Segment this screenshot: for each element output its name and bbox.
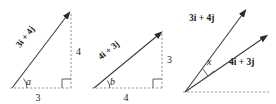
panel-2-vertical-label: 3 xyxy=(167,54,172,65)
panel-2-vector-label: 4i + 3j xyxy=(96,39,121,62)
panel-1-horizontal-label: 3 xyxy=(36,92,41,103)
label-layer: 3i + 4j a 3 4 4i + 3j b 4 3 3i + 4j 4i +… xyxy=(0,0,276,104)
panel-3-angle-label: x xyxy=(206,56,212,67)
panel-2-horizontal-label: 4 xyxy=(124,92,129,103)
panel-3-lower-vector-label: 4i + 3j xyxy=(229,57,254,67)
panel-1-angle-label: a xyxy=(26,76,31,87)
panel-1-vector-label: 3i + 4j xyxy=(14,24,37,49)
panel-1-vertical-label: 4 xyxy=(76,46,81,57)
panel-3-upper-vector-label: 3i + 4j xyxy=(189,13,214,23)
panel-2-angle-label: b xyxy=(110,76,115,87)
vector-diagram-figure: 3i + 4j a 3 4 4i + 3j b 4 3 3i + 4j 4i +… xyxy=(0,0,276,104)
